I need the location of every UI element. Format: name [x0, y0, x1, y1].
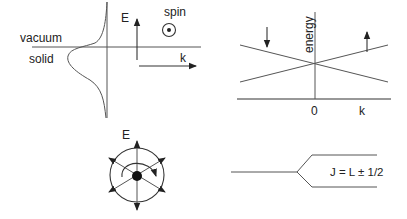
- surface-panel: vacuum solid E k spin: [20, 2, 201, 118]
- field-arrow-upper-right: [137, 158, 165, 175]
- diagram-canvas: vacuum solid E k spin energy 0 k E: [0, 0, 407, 219]
- split-branch-lower: [297, 172, 312, 187]
- energy-axis-label: energy: [302, 16, 316, 53]
- nucleus-dot: [132, 171, 142, 181]
- vacuum-label: vacuum: [20, 31, 62, 45]
- solid-label: solid: [29, 52, 54, 66]
- splitting-formula: J = L ± 1/2: [330, 166, 384, 178]
- splitting-panel: J = L ± 1/2: [231, 155, 384, 187]
- energy-label: E: [122, 128, 130, 142]
- zero-tick-label: 0: [311, 104, 318, 118]
- split-branch-upper: [297, 155, 312, 172]
- energy-axis-label: E: [121, 11, 129, 25]
- spin-label: spin: [164, 5, 186, 19]
- k-axis-label: k: [180, 51, 187, 65]
- field-arrow-upper-left: [109, 158, 137, 175]
- spin-dot-icon: [167, 28, 171, 32]
- wavefunction-curve: [68, 2, 107, 118]
- k-axis-label: k: [359, 104, 366, 118]
- field-panel: E: [109, 128, 165, 210]
- dispersion-panel: energy 0 k: [237, 12, 391, 118]
